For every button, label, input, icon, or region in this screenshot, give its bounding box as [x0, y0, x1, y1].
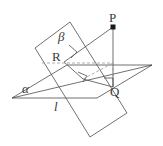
right-angle-marker-r: [69, 45, 77, 58]
label-point-q: Q: [110, 85, 119, 98]
segment-r-foot: [64, 62, 83, 79]
geometry-figure: P β R Q α l: [0, 0, 163, 146]
label-plane-alpha: α: [22, 82, 29, 95]
segment-pr: [64, 27, 113, 62]
label-point-p: P: [109, 11, 116, 24]
label-line-l: l: [54, 100, 58, 113]
label-plane-beta: β: [58, 30, 64, 43]
geometry-canvas: [0, 0, 163, 146]
point-p-marker: [111, 25, 116, 30]
line-l: [12, 65, 152, 98]
label-point-r: R: [52, 50, 61, 63]
